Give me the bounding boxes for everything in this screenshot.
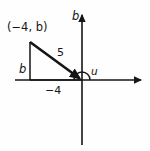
hypotenuse-vector [30,42,80,78]
vertical-leg-label: b [19,62,26,76]
hypotenuse-length-label: 5 [57,46,64,59]
point-coordinate-label: (−4, b) [7,20,48,34]
diagram-canvas: (−4, b) b 5 b −4 u [0,0,150,151]
horizontal-leg-label: −4 [45,84,61,97]
vertical-axis-label: b [72,9,79,23]
trigonometry-diagram: (−4, b) b 5 b −4 u [0,0,150,151]
angle-label: u [91,65,98,77]
